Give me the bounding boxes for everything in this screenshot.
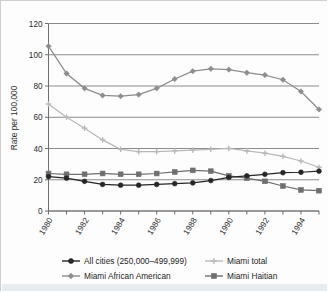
- y-axis-title: Rate per 100,000: [9, 85, 19, 150]
- data-point-marker: [46, 174, 51, 179]
- data-point-marker: [190, 180, 195, 185]
- data-point-marker: [172, 170, 177, 175]
- data-point-marker: [136, 172, 141, 177]
- y-tick-label: 20: [33, 176, 43, 185]
- data-point-marker: [154, 171, 159, 176]
- legend-label: Miami Haitian: [227, 271, 278, 281]
- y-tick-label: 80: [33, 82, 43, 91]
- data-point-marker: [299, 188, 304, 193]
- data-point-marker: [281, 184, 286, 189]
- data-point-marker: [64, 176, 69, 181]
- data-point-marker: [317, 188, 322, 193]
- data-point-marker: [172, 181, 177, 186]
- data-point-marker: [190, 168, 195, 173]
- data-point-marker: [317, 169, 322, 174]
- line-chart: 020406080100120 198019821984198619881990…: [1, 1, 328, 292]
- data-point-marker: [208, 178, 213, 183]
- data-point-marker: [244, 173, 249, 178]
- data-point-marker: [69, 259, 74, 264]
- chart-area: 020406080100120 198019821984198619881990…: [1, 1, 328, 292]
- data-point-marker: [82, 172, 87, 177]
- data-point-marker: [118, 172, 123, 177]
- data-point-marker: [100, 171, 105, 176]
- y-tick-label: 40: [33, 145, 43, 154]
- y-tick-label: 100: [29, 51, 43, 60]
- data-point-marker: [212, 274, 217, 279]
- y-tick-label: 60: [33, 113, 43, 122]
- data-point-marker: [118, 183, 123, 188]
- data-point-marker: [299, 170, 304, 175]
- data-point-marker: [154, 182, 159, 187]
- legend-label: All cities (250,000–499,999): [84, 256, 187, 266]
- legend-label: Miami total: [227, 256, 267, 266]
- y-tick-label: 120: [29, 20, 43, 29]
- data-point-marker: [82, 179, 87, 184]
- legend-label: Miami African American: [84, 271, 171, 281]
- y-tick-label: 0: [38, 207, 43, 216]
- data-point-marker: [281, 170, 286, 175]
- data-point-marker: [100, 182, 105, 187]
- footer-strip: [2, 284, 327, 291]
- data-point-marker: [136, 183, 141, 188]
- data-point-marker: [226, 175, 231, 180]
- data-point-marker: [263, 172, 268, 177]
- data-point-marker: [263, 179, 268, 184]
- data-point-marker: [208, 169, 213, 174]
